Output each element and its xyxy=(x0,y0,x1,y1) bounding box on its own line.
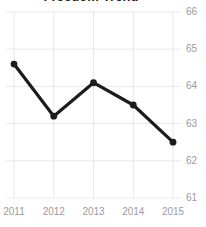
y-axis-tick-label: 65 xyxy=(186,44,206,54)
x-axis-tick-label: 2014 xyxy=(113,207,153,217)
data-point-marker xyxy=(90,79,97,86)
plot-svg xyxy=(0,0,182,202)
data-point-marker xyxy=(170,139,177,146)
vertical-gridlines xyxy=(14,12,173,198)
y-axis-tick-label: 66 xyxy=(186,7,206,17)
y-axis-tick-label: 64 xyxy=(186,81,206,91)
x-axis-tick-label: 2015 xyxy=(153,207,193,217)
y-axis-tick-label: 61 xyxy=(186,193,206,203)
x-axis-tick-label: 2011 xyxy=(0,207,34,217)
x-axis-tick-label: 2012 xyxy=(34,207,74,217)
freedom-trend-line-chart: Freedom Trend 616263646566 2011201220132… xyxy=(0,0,206,227)
data-point-marker xyxy=(11,61,18,68)
y-axis-tick-label: 62 xyxy=(186,156,206,166)
x-axis-tick-label: 2013 xyxy=(74,207,114,217)
data-point-marker xyxy=(50,113,57,120)
plot-area xyxy=(0,0,182,202)
data-point-marker xyxy=(130,102,137,109)
y-axis-tick-label: 63 xyxy=(186,119,206,129)
